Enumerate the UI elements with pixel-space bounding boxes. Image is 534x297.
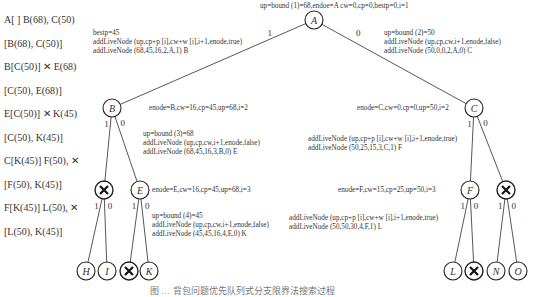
a-left-annotation: bestp=45 addLiveNode (up,cp+p [i],cw+w […	[93, 29, 242, 56]
svg-text:B: B	[109, 103, 115, 114]
tree-node-b: B	[103, 99, 121, 117]
edge-label: 1	[132, 201, 137, 211]
edge-label: 1	[461, 201, 466, 211]
edge-label: 0	[356, 28, 361, 38]
svg-text:H: H	[81, 266, 90, 277]
pruned-node	[497, 181, 515, 199]
f-state: enode=F,cw=15,cp=25,up=50,i=3	[338, 186, 436, 195]
svg-text:O: O	[514, 266, 521, 277]
svg-text:I: I	[104, 266, 109, 277]
edge-label: 1	[467, 119, 472, 129]
pruned-node	[465, 262, 483, 280]
svg-text:F: F	[466, 185, 474, 196]
queue-step: [C(50), E(68)]	[4, 85, 62, 97]
svg-text:E: E	[136, 185, 143, 196]
tree-node-e: E	[131, 181, 149, 199]
pruned-node	[95, 181, 113, 199]
queue-step: [C(50), K(45)]	[4, 132, 63, 144]
c-left-annotation: addLiveNode (up,cp+p [i],cw+w [i],i+1,en…	[308, 135, 457, 153]
f-left-annotation: addLiveNode (up,cp+p [i],cw+w [i],i+1,en…	[289, 214, 438, 232]
edge-label: 0	[145, 201, 150, 211]
queue-step: C[K(45)] F(50), ✕	[4, 155, 79, 167]
tree-node-f: F	[461, 181, 479, 199]
svg-text:K: K	[145, 266, 154, 277]
queue-step: B[C(50)] ✕ E(68)	[4, 61, 76, 73]
svg-text:C: C	[471, 103, 478, 114]
tree-node-k: K	[140, 262, 158, 280]
edge-label: 1	[268, 28, 273, 38]
e-right-annotation: up=bound (4)=45 addLiveNode (up,cp,cw,i+…	[152, 212, 269, 239]
b-state: enode=B,cw=16,cp=45,up=68,i=2	[149, 104, 248, 113]
edge-label: 0	[474, 201, 479, 211]
tree-node-h: H	[77, 262, 95, 280]
queue-step: [B(68), C(50)]	[4, 38, 62, 50]
tree-node-l: L	[444, 262, 462, 280]
edge-label: 0	[483, 118, 488, 128]
root-state: up=bound (1)=68,endoe=A cw=0,cp=0,bestp=…	[260, 2, 409, 11]
tree-edge	[477, 116, 502, 181]
tree-node-n: N	[487, 262, 505, 280]
pruned-node	[120, 262, 138, 280]
queue-step: A[ ] B(68), C(50)	[4, 14, 75, 26]
svg-text:L: L	[449, 266, 456, 277]
tree-node-i: I	[98, 262, 116, 280]
svg-text:N: N	[492, 266, 501, 277]
b-right-annotation: up=bound (3)=68 addLiveNode (up,cp,cw,i+…	[143, 130, 260, 157]
svg-text:A: A	[310, 15, 318, 26]
edge-label: 1	[498, 201, 503, 211]
c-state: enode=C,cw=0,cp=0,up=50,i=2	[357, 104, 449, 113]
figure-caption: 图 … 背包问题优先队列式分支限界法搜索过程	[150, 284, 335, 297]
tree-node-o: O	[509, 262, 527, 280]
queue-step: [L(50), K(45)]	[4, 226, 62, 238]
edge-label: 0	[120, 118, 125, 128]
tree-node-a: A	[305, 11, 323, 29]
a-right-annotation: up=bound (2)=50 addLiveNode (up,cp,cw,i+…	[384, 29, 501, 56]
e-state: enode=E,cw=16,cp=45,up=68,i=3	[152, 186, 251, 195]
queue-step: [F(50), K(45)]	[4, 179, 62, 191]
queue-step: F[K(45)] L(50), ✕	[4, 202, 78, 214]
edge-label: 0	[108, 201, 113, 211]
tree-edge	[104, 199, 106, 262]
tree-node-c: C	[465, 99, 483, 117]
tree-edge	[115, 117, 137, 182]
edge-label: 1	[104, 119, 109, 129]
edge-label: 0	[511, 201, 516, 211]
queue-step: E[C(50)] ✕ K(45)	[4, 108, 77, 120]
edge-label: 1	[94, 201, 99, 211]
